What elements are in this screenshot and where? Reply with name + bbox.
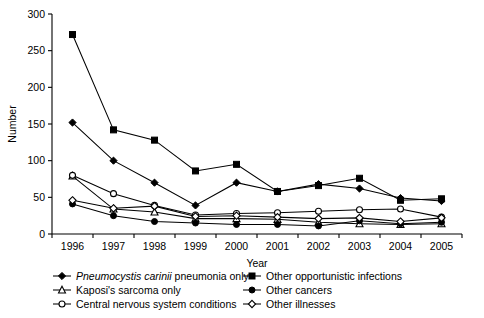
series-4-point-1-marker [111,191,117,197]
series-line-5 [73,200,442,221]
legend-label-2: Central nervous system conditions [76,298,237,310]
x-tick-label: 2004 [389,240,413,252]
series-1-point-9-marker [439,196,445,202]
series-1-point-7-marker [357,175,363,181]
series-1-point-0-marker [70,32,76,38]
series-4-point-8-marker [398,206,404,212]
legend-0-marker [58,272,65,279]
x-tick-label: 2005 [430,240,454,252]
series-1-point-2-marker [152,137,158,143]
x-tick-label: 2000 [225,240,249,252]
x-tick-label: 1997 [102,240,126,252]
y-tick-label: 100 [27,154,45,166]
series-4-point-0-marker [70,172,76,178]
series-3-point-4-marker [234,221,240,227]
series-0-point-7-marker [356,185,363,192]
series-1-point-6-marker [316,183,322,189]
x-tick-label: 1999 [184,240,208,252]
x-tick-label: 2003 [348,240,372,252]
series-3-point-1-marker [111,213,117,219]
x-axis-title: Year [246,257,268,269]
legend-label-4: Other cancers [266,284,332,296]
legend-label-5: Other illnesses [266,298,335,310]
series-1-point-8-marker [398,197,404,203]
series-1-point-4-marker [234,161,240,167]
legend-4-marker [249,287,255,293]
series-3-point-6-marker [316,223,322,229]
y-tick-label: 250 [27,44,45,56]
series-4-point-7-marker [357,207,363,213]
series-0-point-4-marker [233,179,240,186]
series-4-point-6-marker [316,208,322,214]
series-3-point-2-marker [152,219,158,225]
series-3-point-5-marker [275,221,281,227]
series-1-point-3-marker [193,168,199,174]
y-tick-label: 150 [27,118,45,130]
x-tick-label: 2002 [307,240,331,252]
x-tick-label: 2001 [266,240,290,252]
series-0-point-3-marker [192,202,199,209]
x-tick-label: 1998 [143,240,167,252]
y-axis-title: Number [6,105,18,143]
y-tick-label: 300 [27,8,45,20]
series-0-point-2-marker [151,179,158,186]
series-1-point-1-marker [111,127,117,133]
series-1-point-5-marker [275,188,281,194]
line-chart: 050100150200250300Number1996199719981999… [0,0,484,318]
y-tick-label: 50 [33,191,45,203]
legend-label-3: Other opportunistic infections [266,270,402,282]
legend-2-marker [59,301,65,307]
series-line-1 [73,35,442,201]
series-5-point-6-marker [315,215,322,222]
y-tick-label: 200 [27,81,45,93]
series-line-4 [73,175,442,217]
legend-label-0: Pneumocystis carinii pneumonia only [76,270,250,282]
legend-5-marker [248,300,255,307]
x-tick-label: 1996 [61,240,85,252]
chart-canvas: 050100150200250300Number1996199719981999… [0,0,484,318]
y-tick-label: 0 [39,228,45,240]
series-3-point-3-marker [193,220,199,226]
legend-3-marker [249,273,255,279]
legend-label-1: Kaposi's sarcoma only [76,284,181,296]
